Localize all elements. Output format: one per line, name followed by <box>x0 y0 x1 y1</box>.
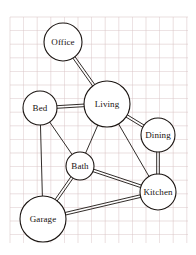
graph-layer: OfficeLivingBedDiningBathKitchenGarage <box>0 0 196 255</box>
edge-bed-living <box>56 104 84 106</box>
edge-bed-bath <box>49 122 72 155</box>
diagram-canvas: OfficeLivingBedDiningBathKitchenGarage <box>0 0 196 255</box>
edge-office-living <box>75 56 95 85</box>
node-label-living: Living <box>95 99 120 109</box>
edge-living-dining <box>126 117 144 128</box>
edge-living-dining <box>127 115 145 126</box>
edge-garage-kitchen <box>65 195 141 213</box>
node-garage[interactable]: Garage <box>20 196 66 242</box>
edge-bath-kitchen <box>92 172 141 188</box>
edge-bed-living <box>57 107 85 109</box>
edge-bed-garage <box>40 124 42 196</box>
node-dining[interactable]: Dining <box>141 118 175 152</box>
node-label-kitchen: Kitchen <box>143 187 173 197</box>
node-bed[interactable]: Bed <box>23 91 57 125</box>
node-label-bath: Bath <box>71 161 89 171</box>
node-label-office: Office <box>51 37 74 47</box>
edge-bath-kitchen <box>93 169 142 185</box>
node-group: OfficeLivingBedDiningBathKitchenGarage <box>20 23 176 242</box>
edge-garage-kitchen <box>65 197 141 215</box>
node-living[interactable]: Living <box>84 81 130 127</box>
node-bath[interactable]: Bath <box>66 152 94 180</box>
node-label-dining: Dining <box>145 130 171 140</box>
edge-office-living <box>73 58 93 87</box>
node-label-garage: Garage <box>30 214 57 224</box>
node-kitchen[interactable]: Kitchen <box>140 174 176 210</box>
node-label-bed: Bed <box>33 103 48 113</box>
edge-bath-garage <box>55 176 71 199</box>
node-office[interactable]: Office <box>44 23 82 61</box>
edge-bath-garage <box>57 178 73 201</box>
edge-living-bath <box>85 125 98 154</box>
